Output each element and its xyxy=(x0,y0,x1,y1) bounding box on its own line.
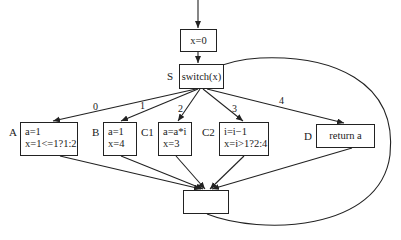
node-B-line-1: a=1 xyxy=(108,126,136,138)
node-D-text: return a xyxy=(329,130,361,142)
edge-label-1: 1 xyxy=(140,101,145,111)
node-switch-text: switch(x) xyxy=(182,71,222,83)
edge-switch-D xyxy=(207,89,344,123)
node-C2: i=i−1 x=i>1?2:4 xyxy=(219,122,269,156)
node-C1: a=a*i x=3 xyxy=(158,122,192,156)
edge-switch-A xyxy=(53,89,196,121)
node-C1-line-2: x=3 xyxy=(163,138,191,150)
node-B-label: B xyxy=(92,126,99,138)
node-B-line-2: x=4 xyxy=(108,138,136,150)
node-C1-line-1: a=a*i xyxy=(163,126,191,138)
node-A-line-1: a=1 xyxy=(25,126,77,138)
edge-label-3: 3 xyxy=(232,104,237,114)
edge-label-4: 4 xyxy=(279,96,284,106)
node-A-label: A xyxy=(9,126,17,138)
node-C2-label: C2 xyxy=(202,126,215,138)
edge-label-2: 2 xyxy=(178,104,183,114)
node-C1-label: C1 xyxy=(141,126,154,138)
node-B: a=1 x=4 xyxy=(103,122,137,156)
node-init: x=0 xyxy=(180,29,217,52)
edge-label-0: 0 xyxy=(93,102,98,112)
node-D: return a xyxy=(316,124,375,148)
node-switch: switch(x) xyxy=(179,64,224,89)
edge-switch-C2 xyxy=(203,89,243,121)
node-A: a=1 x=1<=1?1:2 xyxy=(20,122,78,156)
edge-switch-B xyxy=(121,89,198,121)
node-D-label: D xyxy=(304,130,312,142)
node-C2-line-2: x=i>1?2:4 xyxy=(224,138,268,150)
node-C2-line-1: i=i−1 xyxy=(224,126,268,138)
node-A-line-2: x=1<=1?1:2 xyxy=(25,138,77,150)
node-join xyxy=(183,190,229,214)
node-switch-label: S xyxy=(167,70,173,82)
node-init-text: x=0 xyxy=(190,35,206,47)
